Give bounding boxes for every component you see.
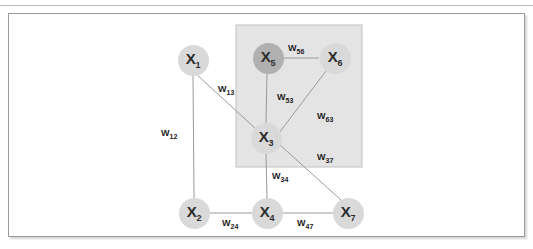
graph-node-label-x7: X7 [341,204,355,223]
graph-node-label-x4: X4 [260,204,274,223]
diagram-canvas: X1X2X3X4X5X6X7 W12W13W53W56W63W37W34W24W… [0,0,533,249]
edge-weight-label-w24: W24 [222,219,238,230]
edge-weight-label-w56: W56 [288,44,304,55]
graph-node-label-x1: X1 [186,51,200,70]
edge-weight-label-w63: W63 [317,112,333,123]
graph-edge-x1-x2 [193,75,194,198]
edge-weight-label-w47: W47 [297,219,313,230]
graph-node-x6[interactable]: X6 [320,43,351,74]
graph-node-x3[interactable]: X3 [251,123,282,154]
edge-weight-label-w13: W13 [218,85,234,96]
edge-weight-label-w12: W12 [161,129,177,140]
graph-node-x5[interactable]: X5 [253,43,284,74]
graph-node-x2[interactable]: X2 [179,198,210,229]
graph-node-x1[interactable]: X1 [178,45,209,76]
edge-weight-label-w34: W34 [272,172,288,183]
graph-node-label-x3: X3 [259,129,273,148]
graph-node-x4[interactable]: X4 [252,198,283,229]
graph-node-label-x5: X5 [261,49,275,68]
graph-node-x7[interactable]: X7 [333,198,364,229]
edge-weight-label-w37: W37 [317,153,333,164]
edge-weight-label-w53: W53 [277,93,293,104]
graph-node-label-x6: X6 [328,49,342,68]
graph-node-label-x2: X2 [187,204,201,223]
